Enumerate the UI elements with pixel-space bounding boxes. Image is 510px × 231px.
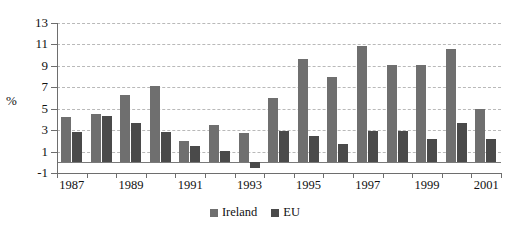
bar-group	[116, 23, 146, 173]
x-axis-tick-label: 1991	[167, 179, 213, 192]
bar-group	[353, 23, 383, 173]
bar-ireland-2000	[446, 49, 456, 163]
bar-eu-1997	[368, 131, 378, 162]
bar-eu-1991	[190, 146, 200, 162]
x-axis-tick	[264, 173, 265, 178]
x-axis-tick	[442, 173, 443, 178]
bar-group	[471, 23, 501, 173]
bar-eu-1989	[131, 123, 141, 163]
bar-ireland-1988	[91, 114, 101, 162]
x-axis-tick-label: 1995	[286, 179, 332, 192]
bar-ireland-1990	[150, 86, 160, 162]
x-axis-tick	[205, 173, 206, 178]
bar-eu-1987	[72, 132, 82, 162]
bar-group	[146, 23, 176, 173]
y-axis-tick-label: 5	[4, 102, 48, 115]
x-axis-tick	[146, 173, 147, 178]
bar-ireland-1996	[327, 77, 337, 163]
bar-group	[175, 23, 205, 173]
x-axis-tick	[87, 173, 88, 178]
bar-group	[323, 23, 353, 173]
bar-eu-1988	[102, 116, 112, 162]
x-axis-line	[57, 173, 501, 174]
bar-eu-1994	[279, 131, 289, 162]
bar-group	[383, 23, 413, 173]
legend-swatch-icon	[271, 209, 279, 217]
legend-item-eu[interactable]: EU	[271, 205, 300, 220]
legend-label: EU	[283, 205, 300, 220]
bar-ireland-1991	[179, 141, 189, 162]
y-axis-tick-label: 1	[4, 145, 48, 158]
x-axis-tick	[235, 173, 236, 178]
bar-group	[264, 23, 294, 173]
x-axis-tick	[353, 173, 354, 178]
bar-group	[57, 23, 87, 173]
chart-legend: IrelandEU	[0, 205, 510, 220]
bar-ireland-1995	[298, 59, 308, 162]
bar-group	[442, 23, 472, 173]
y-axis-tick-label: 11	[4, 37, 48, 50]
bar-group	[205, 23, 235, 173]
y-axis-tick-label: -1	[4, 166, 48, 179]
bar-group	[87, 23, 117, 173]
bar-eu-1996	[338, 144, 348, 162]
y-axis-tick-label: 13	[4, 16, 48, 29]
x-axis-tick-label: 2001	[463, 179, 509, 192]
bar-ireland-1993	[239, 133, 249, 162]
x-axis-tick-label: 1999	[404, 179, 450, 192]
bar-ireland-1999	[416, 65, 426, 163]
legend-swatch-icon	[210, 209, 218, 217]
x-axis-tick-label: 1993	[226, 179, 272, 192]
bar-ireland-1994	[268, 98, 278, 162]
x-axis-tick	[57, 173, 58, 178]
bar-eu-2001	[486, 139, 496, 163]
bar-ireland-1997	[357, 46, 367, 163]
y-axis-tick-label: 7	[4, 80, 48, 93]
legend-item-ireland[interactable]: Ireland	[210, 205, 257, 220]
bar-group	[294, 23, 324, 173]
bar-group	[235, 23, 265, 173]
bar-ireland-1992	[209, 125, 219, 163]
bar-eu-1999	[427, 139, 437, 163]
x-axis-tick	[294, 173, 295, 178]
x-axis-tick-label: 1989	[108, 179, 154, 192]
bar-ireland-2001	[475, 109, 485, 163]
x-axis-tick	[501, 173, 502, 178]
bar-eu-2000	[457, 123, 467, 163]
x-axis-tick	[175, 173, 176, 178]
legend-label: Ireland	[222, 205, 257, 220]
x-axis-tick-label: 1997	[345, 179, 391, 192]
bar-eu-1993	[250, 162, 260, 167]
bar-chart: % 131197531-1 IrelandEU 1987198919911993…	[0, 0, 510, 231]
bar-ireland-1989	[120, 95, 130, 163]
bar-eu-1992	[220, 151, 230, 163]
y-axis-tick-label: 3	[4, 123, 48, 136]
bar-ireland-1998	[387, 65, 397, 163]
bar-eu-1990	[161, 132, 171, 162]
x-axis-tick	[323, 173, 324, 178]
bar-ireland-1987	[61, 117, 71, 162]
bar-eu-1998	[398, 131, 408, 162]
x-axis-tick	[116, 173, 117, 178]
bar-group	[412, 23, 442, 173]
bar-eu-1995	[309, 136, 319, 163]
y-axis-tick-label: 9	[4, 59, 48, 72]
x-axis-tick	[412, 173, 413, 178]
x-axis-tick	[471, 173, 472, 178]
x-axis-tick	[383, 173, 384, 178]
y-axis-labels: 131197531-1	[0, 0, 48, 231]
x-axis-tick-label: 1987	[49, 179, 95, 192]
